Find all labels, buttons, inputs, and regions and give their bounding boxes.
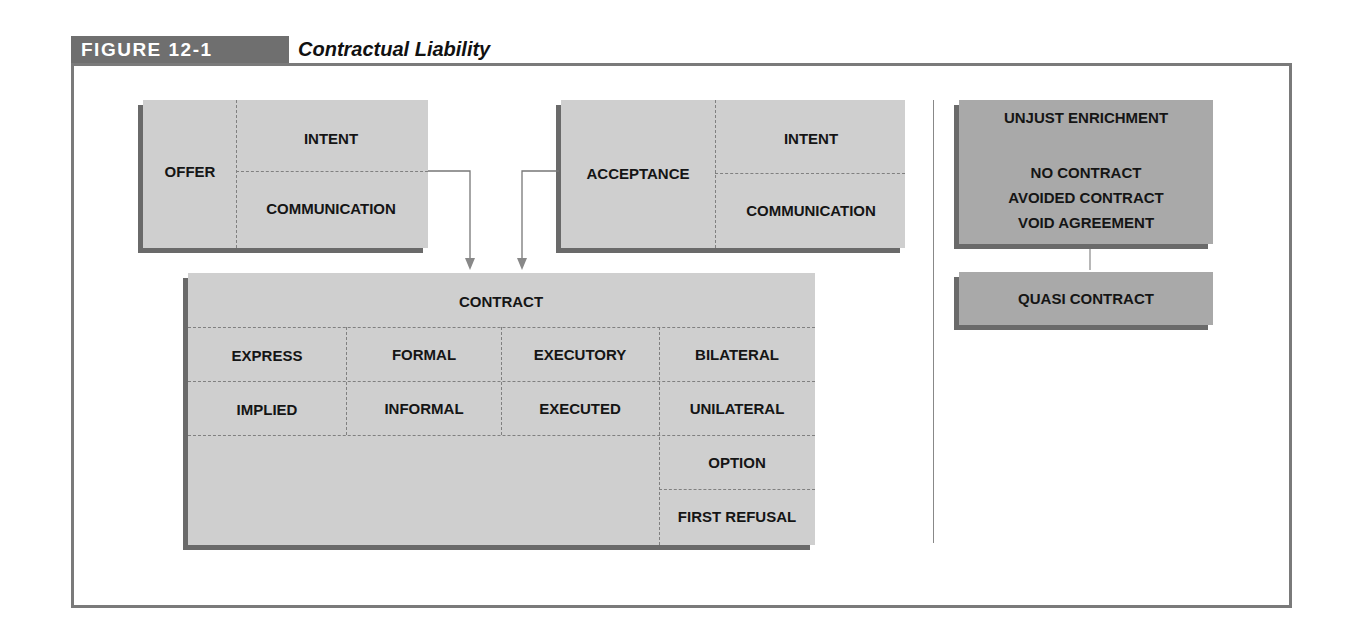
void-agreement-item: VOID AGREEMENT — [1018, 214, 1154, 231]
contract-unilateral: UNILATERAL — [690, 400, 785, 417]
contract-header: CONTRACT — [459, 293, 543, 310]
avoided-contract-item: AVOIDED CONTRACT — [1008, 189, 1164, 206]
unjust-enrichment-title: UNJUST ENRICHMENT — [1004, 109, 1168, 126]
arrowhead-icon — [465, 258, 475, 270]
quasi-contract-box: QUASI CONTRACT — [959, 272, 1213, 325]
contract-informal: INFORMAL — [384, 400, 463, 417]
contract-row-divider — [188, 435, 815, 436]
offer-to-contract-arrow — [428, 171, 470, 264]
contract-bilateral: BILATERAL — [695, 346, 779, 363]
unjust-enrichment-box: UNJUST ENRICHMENT NO CONTRACT AVOIDED CO… — [959, 100, 1213, 244]
quasi-contract-label: QUASI CONTRACT — [1018, 290, 1154, 307]
no-contract-item: NO CONTRACT — [1031, 164, 1142, 181]
contract-col-divider — [346, 327, 347, 435]
contract-formal: FORMAL — [392, 346, 456, 363]
contract-box: CONTRACT EXPRESS FORMAL EXECUTORY BILATE… — [188, 273, 815, 545]
contract-row-divider — [659, 489, 815, 490]
contract-first-refusal: FIRST REFUSAL — [678, 508, 796, 525]
contract-implied: IMPLIED — [237, 401, 298, 418]
arrowhead-icon — [517, 258, 527, 270]
acceptance-to-contract-arrow — [522, 171, 559, 264]
contract-executed: EXECUTED — [539, 400, 621, 417]
contract-executory: EXECUTORY — [534, 346, 627, 363]
vertical-divider — [933, 100, 934, 543]
contract-express: EXPRESS — [232, 347, 303, 364]
contract-col-divider — [501, 327, 502, 435]
contract-col-divider — [659, 327, 660, 545]
contract-option: OPTION — [708, 454, 766, 471]
